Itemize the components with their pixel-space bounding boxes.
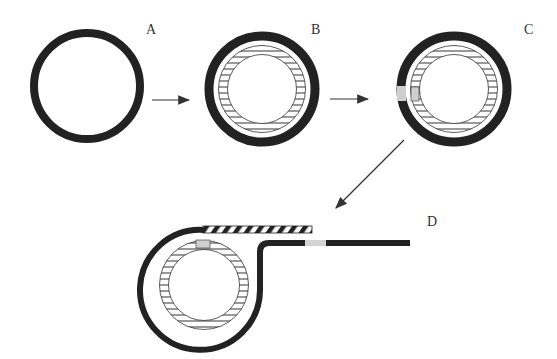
label-a: A <box>146 22 157 37</box>
marker-strip-d <box>305 240 326 246</box>
stage-a: A <box>34 22 157 139</box>
stage-c: C <box>397 22 533 142</box>
arrow-c-to-d <box>336 140 404 208</box>
stage-d: D <box>140 214 437 350</box>
label-d: D <box>427 214 437 229</box>
hatched-ring-d-inner-edge <box>169 250 240 321</box>
marker-inner-c <box>411 87 419 101</box>
hatched-ring-b-inner-edge <box>228 55 297 124</box>
hatched-flap <box>203 226 312 233</box>
hatched-ring-b <box>223 50 301 128</box>
hatched-ring-c <box>415 50 493 128</box>
diagram-canvas: A B C D <box>0 0 557 359</box>
outer-ring-a <box>34 33 140 139</box>
label-b: B <box>311 22 320 37</box>
marker-outer-c <box>397 86 406 101</box>
stage-b: B <box>209 22 320 142</box>
hatched-ring-c-inner-edge <box>420 55 489 124</box>
marker-inner-d <box>196 240 210 248</box>
hatched-ring-d <box>164 245 244 325</box>
label-c: C <box>524 22 533 37</box>
